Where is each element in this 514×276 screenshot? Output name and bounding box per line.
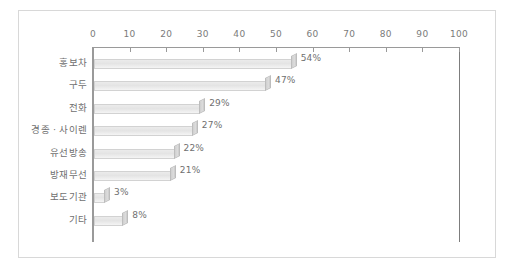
bar-row: 유선방송22% [19, 142, 497, 164]
bar-row: 보도기관3% [19, 186, 497, 208]
bar-row: 구두47% [19, 74, 497, 96]
bar-end-cap [104, 187, 110, 203]
bar-row: 경종 · 사이렌27% [19, 119, 497, 141]
bar-end-cap [199, 98, 205, 114]
bar-row: 전화29% [19, 97, 497, 119]
bar-end-cap [170, 165, 176, 181]
bar-value-label: 8% [132, 210, 147, 220]
bar-row: 홍보차54% [19, 52, 497, 74]
bar-value-label: 22% [184, 143, 205, 153]
bar-body [94, 81, 266, 91]
bar [94, 101, 206, 114]
bar [94, 78, 272, 91]
bar-body [94, 149, 175, 159]
chart-frame: 0102030405060708090100 홍보차54%구두47%전화29%경… [18, 10, 496, 258]
bar-end-cap [192, 120, 198, 136]
x-axis-tick-label: 100 [444, 29, 474, 39]
x-axis-tick-label: 10 [115, 29, 145, 39]
bar-category-label: 구두 [19, 74, 87, 96]
bar-end-cap [265, 75, 271, 91]
bar-body [94, 126, 193, 136]
bar-body [94, 171, 171, 181]
bar-value-label: 29% [209, 98, 230, 108]
bar [94, 56, 298, 69]
x-axis-tick-label: 50 [261, 29, 291, 39]
x-axis-tick-label: 40 [224, 29, 254, 39]
bar-value-label: 47% [275, 75, 296, 85]
bar-body [94, 216, 123, 226]
bar-category-label: 기타 [19, 209, 87, 231]
bar-row: 기타8% [19, 209, 497, 231]
bar-end-cap [174, 143, 180, 159]
bar [94, 213, 129, 226]
bar-chart-plot-area: 0102030405060708090100 홍보차54%구두47%전화29%경… [19, 11, 497, 259]
bar-end-cap [122, 210, 128, 226]
x-axis-tick-label: 80 [371, 29, 401, 39]
bar [94, 190, 111, 203]
bar [94, 146, 181, 159]
bar-end-cap [291, 53, 297, 69]
bar-category-label: 보도기관 [19, 186, 87, 208]
bar-value-label: 3% [114, 187, 129, 197]
bar-category-label: 경종 · 사이렌 [19, 119, 87, 141]
x-axis-tick-label: 90 [407, 29, 437, 39]
bar-value-label: 54% [301, 53, 322, 63]
bar-value-label: 27% [202, 120, 223, 130]
bar-body [94, 59, 292, 69]
bar-category-label: 홍보차 [19, 52, 87, 74]
bar-value-label: 21% [180, 165, 201, 175]
bar-row: 방재무선21% [19, 164, 497, 186]
x-axis-tick-label: 70 [334, 29, 364, 39]
bar [94, 123, 199, 136]
x-axis-tick-label: 60 [298, 29, 328, 39]
bar-category-label: 방재무선 [19, 164, 87, 186]
bar-body [94, 104, 200, 114]
bar-category-label: 유선방송 [19, 142, 87, 164]
x-axis-tick-label: 0 [78, 29, 108, 39]
x-axis-tick-label: 20 [151, 29, 181, 39]
bar-category-label: 전화 [19, 97, 87, 119]
x-axis-tick-label: 30 [188, 29, 218, 39]
bar [94, 168, 177, 181]
